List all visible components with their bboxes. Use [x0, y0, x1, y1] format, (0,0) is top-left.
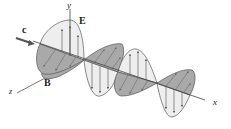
b-field-label: B [44, 77, 51, 88]
speed-label: c [22, 24, 27, 35]
z-axis [17, 78, 45, 93]
z-axis-label: z [8, 87, 13, 96]
em-wave-diagram: y E c B z x [0, 0, 231, 129]
em-wave-figure: y E c B z x [0, 0, 231, 129]
e-field-label: E [79, 15, 86, 26]
y-axis-label: y [66, 0, 71, 10]
velocity-arrowhead-icon [28, 40, 35, 46]
x-axis-label: x [212, 97, 217, 107]
